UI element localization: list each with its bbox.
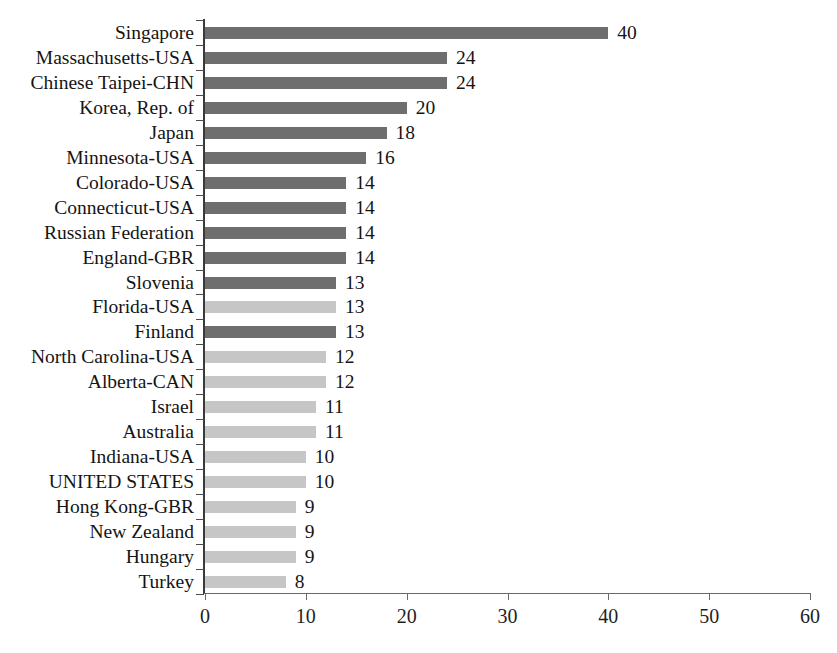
y-axis-tick [196, 394, 204, 395]
y-axis-tick [196, 594, 204, 595]
bar-value-label: 13 [345, 294, 365, 319]
bar-value-label: 18 [396, 120, 416, 145]
bar [205, 476, 306, 488]
y-axis-tick [196, 95, 204, 96]
bar-value-label: 10 [315, 444, 335, 469]
category-label: Australia [0, 419, 194, 444]
category-label: Alberta-CAN [0, 369, 194, 394]
y-axis-tick [196, 270, 204, 271]
x-axis-tick-label: 60 [780, 604, 837, 628]
y-axis-tick [196, 544, 204, 545]
bar [205, 376, 326, 388]
bar-value-label: 9 [305, 494, 315, 519]
category-label: Israel [0, 394, 194, 419]
category-label: Singapore [0, 20, 194, 45]
bar-row: Russian Federation14 [0, 220, 837, 245]
bar-value-label: 14 [355, 170, 375, 195]
bar [205, 102, 407, 114]
bar-row: Turkey8 [0, 569, 837, 594]
bar-chart: Singapore40Massachusetts-USA24Chinese Ta… [0, 0, 837, 653]
x-axis-tick [306, 593, 307, 600]
bar-row: Slovenia13 [0, 270, 837, 295]
x-axis-tick-label: 50 [679, 604, 739, 628]
bar-row: Australia11 [0, 419, 837, 444]
bar-row: Connecticut-USA14 [0, 195, 837, 220]
category-label: Colorado-USA [0, 170, 194, 195]
bar-row: Florida-USA13 [0, 294, 837, 319]
y-axis-tick [196, 70, 204, 71]
bar [205, 127, 387, 139]
y-axis-tick [196, 444, 204, 445]
bar-value-label: 11 [325, 394, 344, 419]
bar [205, 451, 306, 463]
x-axis-tick-label: 20 [377, 604, 437, 628]
bar [205, 152, 366, 164]
bar [205, 202, 346, 214]
x-axis-tick-label: 0 [175, 604, 235, 628]
category-label: Hong Kong-GBR [0, 494, 194, 519]
y-axis-tick [196, 519, 204, 520]
bar-value-label: 16 [375, 145, 395, 170]
category-label: New Zealand [0, 519, 194, 544]
y-axis-tick [196, 569, 204, 570]
y-axis-tick [196, 220, 204, 221]
bar [205, 526, 296, 538]
y-axis-tick [196, 170, 204, 171]
category-label: UNITED STATES [0, 469, 194, 494]
bar [205, 277, 336, 289]
bar-row: New Zealand9 [0, 519, 837, 544]
y-axis-tick [196, 469, 204, 470]
bar-row: Massachusetts-USA24 [0, 45, 837, 70]
category-label: North Carolina-USA [0, 344, 194, 369]
y-axis-tick [196, 319, 204, 320]
bar-value-label: 13 [345, 270, 365, 295]
x-axis-tick [709, 593, 710, 600]
x-axis-tick-label: 40 [578, 604, 638, 628]
y-axis-tick [196, 369, 204, 370]
bar-row: Israel11 [0, 394, 837, 419]
y-axis-tick [196, 245, 204, 246]
x-axis-tick-label: 30 [478, 604, 538, 628]
bar-value-label: 14 [355, 245, 375, 270]
category-label: Indiana-USA [0, 444, 194, 469]
category-label: Turkey [0, 569, 194, 594]
bar-row: Singapore40 [0, 20, 837, 45]
x-axis-tick-label: 10 [276, 604, 336, 628]
bar-value-label: 13 [345, 319, 365, 344]
category-label: Massachusetts-USA [0, 45, 194, 70]
bar [205, 77, 447, 89]
bar-value-label: 8 [295, 569, 305, 594]
y-axis-tick [196, 294, 204, 295]
bar-value-label: 14 [355, 220, 375, 245]
category-label: Chinese Taipei-CHN [0, 70, 194, 95]
bar-row: Korea, Rep. of20 [0, 95, 837, 120]
y-axis-tick [196, 494, 204, 495]
bar-value-label: 12 [335, 369, 355, 394]
bar [205, 301, 336, 313]
bar-row: Hungary9 [0, 544, 837, 569]
bar-row: North Carolina-USA12 [0, 344, 837, 369]
bar [205, 401, 316, 413]
bar-value-label: 40 [617, 20, 637, 45]
bar [205, 52, 447, 64]
bar-value-label: 12 [335, 344, 355, 369]
y-axis-tick [196, 145, 204, 146]
bar [205, 227, 346, 239]
x-axis-tick [205, 593, 206, 600]
x-axis-tick [508, 593, 509, 600]
bar [205, 351, 326, 363]
bar [205, 501, 296, 513]
y-axis-tick [196, 45, 204, 46]
bar-row: UNITED STATES10 [0, 469, 837, 494]
x-axis-tick [407, 593, 408, 600]
category-label: Slovenia [0, 270, 194, 295]
y-axis-tick [196, 120, 204, 121]
bar-row: Colorado-USA14 [0, 170, 837, 195]
bar [205, 426, 316, 438]
category-label: Korea, Rep. of [0, 95, 194, 120]
bar [205, 576, 286, 588]
bar-value-label: 20 [416, 95, 436, 120]
bar-row: Chinese Taipei-CHN24 [0, 70, 837, 95]
bar-row: Finland13 [0, 319, 837, 344]
bar-value-label: 9 [305, 519, 315, 544]
